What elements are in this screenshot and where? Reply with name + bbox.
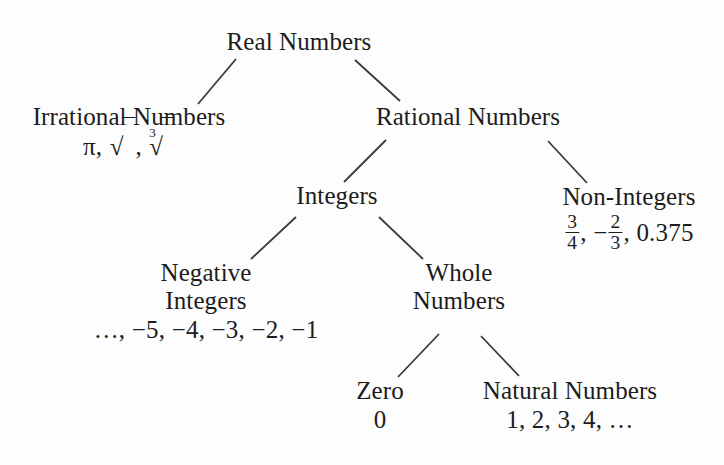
node-whole-numbers: Whole Numbers (413, 259, 505, 315)
edge-integers-to-negative-integers (251, 217, 296, 259)
node-negative-integers-label-line1: Negative (94, 259, 319, 287)
node-real-numbers: Real Numbers (227, 28, 372, 56)
node-rational-numbers-label: Rational Numbers (376, 103, 560, 131)
decimal-value: 0.375 (636, 219, 693, 246)
edge-whole-numbers-to-natural-numbers (481, 336, 519, 376)
node-negative-integers-label: Negative Integers (94, 259, 319, 315)
node-rational-numbers: Rational Numbers (376, 103, 560, 131)
node-integers-label: Integers (296, 182, 377, 210)
edge-rational-to-integers (344, 140, 386, 182)
node-irrational-numbers-examples: π, √22, 3√55 (33, 132, 226, 161)
number-tree-diagram: Real Numbers Irrational Numbers π, √22, … (0, 0, 724, 465)
node-negative-integers-examples: …, −5, −4, −3, −2, −1 (94, 316, 319, 344)
node-whole-numbers-label: Whole Numbers (413, 259, 505, 315)
node-whole-numbers-label-line2: Numbers (413, 287, 505, 315)
node-zero-label: Zero (356, 377, 404, 405)
node-whole-numbers-label-line1: Whole (413, 259, 505, 287)
node-natural-numbers-examples: 1, 2, 3, 4, … (483, 406, 657, 434)
node-zero: Zero 0 (356, 377, 404, 434)
fraction-three-quarters: 3 4 (565, 212, 579, 253)
node-negative-integers-label-line2: Integers (94, 287, 319, 315)
node-irrational-numbers: Irrational Numbers π, √22, 3√55 (33, 103, 226, 161)
example-sqrt-2: √22, (109, 132, 142, 161)
edge-real-to-irrational (198, 59, 236, 104)
example-cbrt-5: 3√55 (148, 132, 175, 161)
edge-whole-numbers-to-zero (398, 334, 439, 377)
node-zero-examples: 0 (356, 406, 404, 434)
edge-rational-to-nonintegers (548, 141, 587, 183)
edge-integers-to-whole-numbers (379, 217, 423, 259)
fraction-two-thirds: 2 3 (609, 212, 623, 253)
node-non-integers-examples: 3 4 , − 2 3 , 0.375 (562, 212, 695, 253)
example-pi: π, (83, 133, 102, 160)
comma-1: , (580, 219, 586, 246)
minus-sign: − (593, 219, 607, 246)
comma-2: , (623, 219, 629, 246)
node-non-integers-label: Non-Integers (562, 183, 695, 211)
node-negative-integers: Negative Integers …, −5, −4, −3, −2, −1 (94, 259, 319, 344)
node-integers: Integers (296, 182, 377, 210)
node-natural-numbers: Natural Numbers 1, 2, 3, 4, … (483, 377, 657, 434)
node-natural-numbers-label: Natural Numbers (483, 377, 657, 405)
node-real-numbers-label: Real Numbers (227, 28, 372, 56)
edge-real-to-rational (355, 60, 400, 101)
node-non-integers: Non-Integers 3 4 , − 2 3 , 0.375 (562, 183, 695, 253)
